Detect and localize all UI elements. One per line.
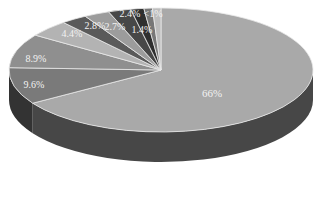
slice-label: 2.4% [120, 8, 141, 19]
slice-label: 8.9% [26, 53, 47, 64]
slice-label: 1.4% [132, 24, 153, 35]
slice-label: 2.8% [85, 20, 106, 31]
slice-label: 66% [202, 87, 222, 99]
pie-chart: 66%9.6%8.9%4.4%2.8%2.7%2.4%1.4%<1% [0, 0, 320, 199]
slice-label: 4.4% [62, 28, 83, 39]
slice-label: 9.6% [24, 79, 45, 90]
slice-label: 2.7% [105, 21, 126, 32]
slice-label: <1% [144, 8, 163, 19]
